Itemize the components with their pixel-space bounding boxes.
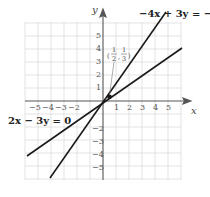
intersection-label: ( 1 2 , 1 3 ) (107, 46, 131, 63)
x-tick: −2 (68, 103, 80, 112)
y-tick: 2 (96, 70, 101, 79)
equation-label-line1: 2x − 3y = 0 (8, 115, 71, 126)
y-axis-arrow-icon (100, 9, 106, 17)
y-tick: −5 (92, 163, 104, 172)
coordinate-plane: x y −5 −4 −3 −2 1 2 3 4 5 5 4 3 2 1 −2 −… (0, 0, 210, 197)
y-axis-label: y (91, 4, 98, 15)
y-tick: −2 (92, 124, 104, 133)
y-tick: 5 (96, 31, 101, 40)
x-axis-arrow-icon (183, 98, 191, 104)
x-tick: 4 (153, 103, 158, 112)
y-tick: −4 (92, 150, 104, 159)
paren-open: ( (107, 52, 110, 60)
intersection-point (107, 94, 112, 99)
x-denominator: 2 (112, 55, 116, 63)
x-axis-label: x (191, 105, 197, 116)
x-tick: −4 (42, 103, 54, 112)
comma: , (118, 53, 120, 61)
y-denominator: 3 (122, 55, 126, 63)
equation-label-line2: −4x + 3y = −1 (139, 8, 210, 19)
paren-close: ) (128, 52, 131, 60)
x-tick: 1 (114, 103, 119, 112)
x-tick: −3 (55, 103, 67, 112)
x-numerator: 1 (112, 46, 116, 54)
x-tick: 5 (166, 103, 171, 112)
y-tick: 4 (96, 44, 101, 53)
x-tick: 3 (140, 103, 145, 112)
y-tick: 3 (96, 57, 101, 66)
x-tick: −5 (29, 103, 41, 112)
x-tick: 2 (127, 103, 132, 112)
y-numerator: 1 (122, 46, 126, 54)
y-tick: 1 (96, 83, 101, 92)
y-tick: −3 (92, 137, 104, 146)
